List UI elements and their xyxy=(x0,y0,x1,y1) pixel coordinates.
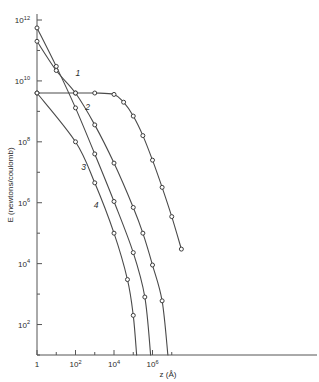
y-tick-label: 1010 xyxy=(15,75,30,86)
data-point xyxy=(74,140,78,144)
data-point xyxy=(93,181,97,185)
curve-label-1: 1 xyxy=(76,68,81,78)
x-axis-title: z (Å) xyxy=(160,370,177,379)
y-tick-label: 102 xyxy=(18,319,30,330)
x-tick-label: 1 xyxy=(35,360,40,369)
data-point xyxy=(141,134,145,138)
data-markers xyxy=(35,26,183,317)
data-point xyxy=(160,185,164,189)
data-point xyxy=(131,313,135,317)
x-axis-tick-labels: 1102104106 xyxy=(35,359,159,370)
data-point xyxy=(93,91,97,95)
curve-2 xyxy=(37,41,168,355)
data-point xyxy=(112,199,116,203)
y-axis-ticks xyxy=(37,20,42,355)
curve-labels: 1234 xyxy=(76,68,99,210)
data-point xyxy=(74,106,78,110)
data-point xyxy=(93,152,97,156)
data-point xyxy=(179,247,183,251)
x-tick-label: 106 xyxy=(146,359,158,370)
curve-3 xyxy=(37,28,151,355)
y-tick-label: 1012 xyxy=(15,15,30,26)
log-log-plot: 10210410610810101012 1102104106 1234 z (… xyxy=(0,0,319,382)
data-point xyxy=(54,64,58,68)
curve-label-2: 2 xyxy=(84,102,90,112)
data-point xyxy=(131,114,135,118)
y-tick-label: 104 xyxy=(18,258,30,269)
curve-1 xyxy=(37,93,181,249)
data-point xyxy=(112,92,116,96)
x-tick-label: 102 xyxy=(69,359,81,370)
curve-label-3: 3 xyxy=(81,162,86,172)
y-axis-title: E (newtons/coulomb) xyxy=(6,147,15,222)
x-tick-label: 104 xyxy=(108,359,120,370)
data-point xyxy=(35,91,39,95)
data-point xyxy=(35,39,39,43)
data-point xyxy=(141,231,145,235)
data-point xyxy=(131,251,135,255)
data-point xyxy=(125,278,129,282)
data-point xyxy=(35,26,39,30)
plot-axes xyxy=(37,14,317,355)
data-point xyxy=(74,91,78,95)
curve-4 xyxy=(37,93,137,355)
y-axis-tick-labels: 10210410610810101012 xyxy=(15,15,30,330)
data-point xyxy=(151,158,155,162)
data-point xyxy=(93,123,97,127)
data-point xyxy=(131,205,135,209)
y-tick-label: 108 xyxy=(18,136,30,147)
data-point xyxy=(143,295,147,299)
data-curves xyxy=(37,28,181,355)
data-point xyxy=(160,299,164,303)
x-axis-ticks xyxy=(37,350,172,355)
data-point xyxy=(112,161,116,165)
data-point xyxy=(112,231,116,235)
data-point xyxy=(54,68,58,72)
data-point xyxy=(170,215,174,219)
data-point xyxy=(151,263,155,267)
data-point xyxy=(122,100,126,104)
figure-container: 10210410610810101012 1102104106 1234 z (… xyxy=(0,0,319,382)
curve-label-4: 4 xyxy=(94,200,99,210)
y-tick-label: 106 xyxy=(18,197,30,208)
